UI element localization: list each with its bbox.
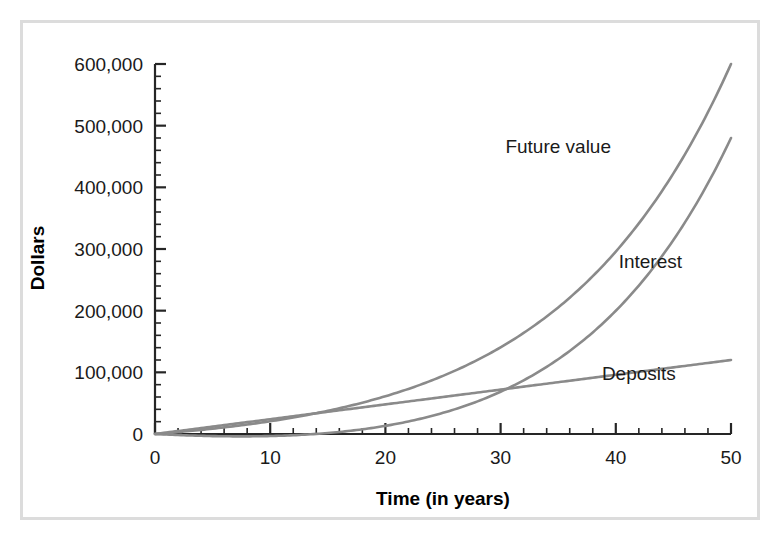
y-axis-title: Dollars [27, 226, 48, 290]
y-tick-label: 300,000 [74, 239, 143, 260]
series-label-future-value: Future value [505, 136, 611, 157]
x-axis-title: Time (in years) [376, 488, 510, 509]
series-line-interest [155, 138, 731, 436]
x-tick-label: 10 [260, 447, 281, 468]
chart-figure: 0100,000200,000300,000400,000500,000600,… [0, 0, 782, 541]
y-tick-label: 200,000 [74, 301, 143, 322]
x-tick-label: 30 [490, 447, 511, 468]
series-label-interest: Interest [619, 251, 683, 272]
y-tick-label: 500,000 [74, 116, 143, 137]
y-axis-tick-labels: 0100,000200,000300,000400,000500,000600,… [74, 54, 143, 445]
x-axis-tick-labels: 01020304050 [150, 447, 742, 468]
chart-plot: 0100,000200,000300,000400,000500,000600,… [0, 0, 782, 541]
y-tick-label: 600,000 [74, 54, 143, 75]
y-tick-label: 100,000 [74, 362, 143, 383]
x-tick-label: 40 [605, 447, 626, 468]
x-tick-label: 0 [150, 447, 161, 468]
x-tick-label: 50 [720, 447, 741, 468]
y-tick-label: 400,000 [74, 177, 143, 198]
series-annotations: Future valueInterestDeposits [505, 136, 682, 383]
y-tick-label: 0 [132, 424, 143, 445]
x-tick-label: 20 [375, 447, 396, 468]
y-axis-ticks [155, 64, 166, 434]
series-label-deposits: Deposits [602, 363, 676, 384]
